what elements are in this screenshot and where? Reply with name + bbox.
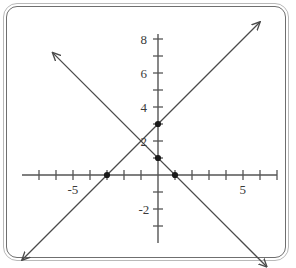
x-tick-label: -5 — [68, 183, 79, 196]
point-x-intercept-rising — [104, 172, 110, 178]
x-tick-label: 5 — [240, 183, 247, 196]
y-tick-label: 6 — [141, 67, 148, 80]
point-y-intercept-falling — [155, 155, 161, 161]
point-y-intercept-rising — [155, 121, 161, 127]
point-x-intercept-falling — [172, 172, 178, 178]
graph-figure: -558642-2 — [0, 0, 296, 268]
y-tick-label: -2 — [139, 203, 150, 216]
y-tick-label: 4 — [141, 101, 148, 114]
y-tick-label: 8 — [141, 33, 148, 46]
coordinate-plane — [0, 0, 296, 268]
y-tick-label: 2 — [141, 135, 148, 148]
points-group — [104, 121, 178, 178]
axes-group — [22, 34, 277, 243]
